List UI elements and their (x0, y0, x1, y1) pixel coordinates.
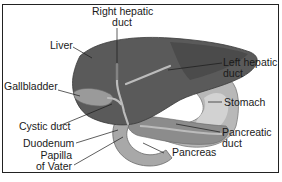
label-left-hepatic-duct: Left hepatic duct (223, 57, 277, 79)
label-stomach: Stomach (224, 97, 265, 108)
label-pancreatic-duct: Pancreatic duct (222, 127, 272, 149)
label-left-hepatic-duct-line2: duct (223, 68, 277, 79)
label-gallbladder: Gallbladder (4, 81, 58, 92)
label-pancreas: Pancreas (172, 147, 216, 158)
label-papilla-line2: of Vater (28, 161, 72, 172)
label-duodenum: Duodenum (23, 138, 74, 149)
label-right-hepatic-duct-line2: duct (92, 17, 152, 28)
label-papilla-of-vater: Papilla of Vater (28, 150, 72, 172)
label-cystic-duct: Cystic duct (19, 121, 70, 132)
label-pancreatic-duct-line2: duct (222, 138, 272, 149)
label-liver: Liver (50, 40, 73, 51)
label-right-hepatic-duct: Right hepatic duct (92, 6, 152, 28)
